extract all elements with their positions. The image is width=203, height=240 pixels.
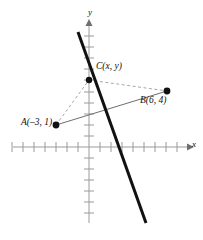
point-C-label: C(x, y) — [96, 62, 122, 72]
point-B-label: B(6, 4) — [140, 96, 166, 106]
coordinate-plane-figure: A(–3, 1) B(6, 4) C(x, y) x y — [0, 0, 203, 240]
x-axis-label: x — [192, 140, 196, 149]
y-axis-arrow-icon — [86, 19, 93, 26]
segment-C-to-B — [89, 80, 167, 91]
point-A-dot — [53, 122, 60, 129]
point-C-dot — [86, 77, 92, 83]
y-axis-label: y — [88, 8, 92, 17]
point-B-dot — [164, 88, 171, 95]
point-A-label: A(–3, 1) — [21, 118, 52, 128]
